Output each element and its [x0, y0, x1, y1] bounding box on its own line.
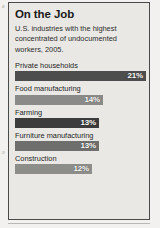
bar-category-label: Private households — [15, 61, 143, 70]
bar-fill: 13% — [15, 118, 99, 128]
bar-track: 14% — [15, 95, 143, 105]
chart-title: On the Job — [15, 8, 143, 21]
bar-fill: 21% — [15, 71, 146, 81]
bar-category-label: Farming — [15, 108, 143, 117]
bar-fill: 12% — [15, 164, 92, 174]
bar-row: Farming13% — [15, 108, 143, 128]
chart-subtitle: U.S. industries with the highest concent… — [15, 24, 143, 56]
bar-category-label: Food manufacturing — [15, 84, 143, 93]
bar-category-label: Furniture manufacturing — [15, 131, 143, 140]
bar-chart: Private households21%Food manufacturing1… — [15, 61, 143, 174]
bar-category-label: Construction — [15, 154, 143, 163]
bar-track: 13% — [15, 141, 143, 151]
bar-value-label: 21% — [128, 72, 143, 80]
page-background: 8 9 On the Job U.S. industries with the … — [0, 0, 160, 228]
bar-fill: 14% — [15, 95, 103, 105]
bar-row: Private households21% — [15, 61, 143, 81]
infographic-panel: On the Job U.S. industries with the high… — [8, 2, 150, 220]
bar-track: 13% — [15, 118, 143, 128]
bar-value-label: 14% — [85, 96, 100, 104]
bar-fill: 13% — [15, 141, 99, 151]
bar-value-label: 13% — [81, 119, 96, 127]
bar-row: Furniture manufacturing13% — [15, 131, 143, 151]
bar-value-label: 12% — [74, 165, 89, 173]
bar-row: Food manufacturing14% — [15, 84, 143, 104]
page-folio-top: 8 — [2, 4, 5, 9]
panel-bottom-rule — [8, 223, 150, 224]
bar-track: 21% — [15, 71, 143, 81]
page-folio-middle: 9 — [2, 150, 5, 155]
bar-value-label: 13% — [81, 142, 96, 150]
bar-track: 12% — [15, 164, 143, 174]
bar-row: Construction12% — [15, 154, 143, 174]
